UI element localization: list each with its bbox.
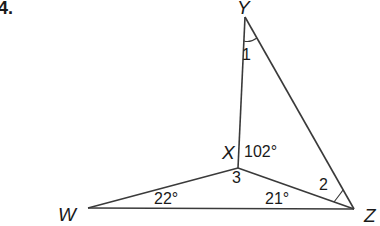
- vertex-label-y: Y: [237, 0, 251, 18]
- angle-label-1: 1: [242, 46, 251, 63]
- angle-label-3: 3: [232, 169, 241, 186]
- vertex-label-w: W: [58, 204, 78, 225]
- angle-label-2: 2: [319, 176, 328, 193]
- segment-XZ: [238, 168, 354, 209]
- vertex-label-x: X: [221, 142, 236, 163]
- angle-label-21: 21°: [265, 190, 289, 207]
- problem-number: 4.: [0, 0, 13, 18]
- angle-label-102: 102°: [244, 143, 277, 160]
- vertex-label-z: Z: [363, 205, 377, 226]
- segment-YZ: [245, 17, 354, 209]
- angle-1-arc: [244, 38, 257, 42]
- geometry-diagram: 4. Y X W Z 1 2 3 102° 22° 21°: [0, 0, 380, 226]
- angle-2-arc: [334, 190, 343, 202]
- segment-WZ: [88, 208, 354, 209]
- angle-label-22: 22°: [154, 190, 178, 207]
